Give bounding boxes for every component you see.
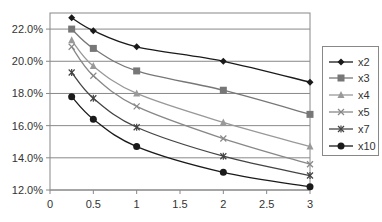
x-tick-label: 2 xyxy=(220,198,226,210)
x-axis-ticks: 00.511.522.53 xyxy=(47,190,313,210)
legend-label: x10 xyxy=(358,140,376,152)
series-x3 xyxy=(68,26,313,118)
legend-label: x5 xyxy=(358,106,370,118)
y-tick-label: 14.0% xyxy=(12,152,43,164)
legend: x2 x3 x4 x5 x7 x10 xyxy=(322,46,379,156)
y-tick-label: 12.0% xyxy=(12,184,43,196)
x-tick-label: 0.5 xyxy=(86,198,101,210)
x-tick-label: 2.5 xyxy=(259,198,274,210)
legend-item-x5: x5 xyxy=(327,105,370,119)
legend-item-x7: x7 xyxy=(327,122,370,136)
circle-marker-icon xyxy=(327,141,355,151)
legend-item-x10: x10 xyxy=(327,139,376,153)
y-tick-label: 18.0% xyxy=(12,87,43,99)
y-tick-label: 16.0% xyxy=(12,120,43,132)
legend-item-x4: x4 xyxy=(327,88,370,102)
series-x5 xyxy=(69,44,313,167)
plot-area xyxy=(50,13,310,190)
legend-item-x2: x2 xyxy=(327,55,370,69)
x-tick-label: 1 xyxy=(134,198,140,210)
legend-label: x3 xyxy=(358,72,370,84)
y-tick-label: 20.0% xyxy=(12,55,43,67)
x-tick-label: 3 xyxy=(307,198,313,210)
triangle-marker-icon xyxy=(327,90,355,100)
square-marker-icon xyxy=(327,73,355,83)
legend-label: x7 xyxy=(358,123,370,135)
x-marker-icon xyxy=(327,107,355,117)
legend-label: x2 xyxy=(358,56,370,68)
legend-item-x3: x3 xyxy=(327,71,370,85)
x-tick-label: 1.5 xyxy=(172,198,187,210)
diamond-marker-icon xyxy=(327,57,355,67)
y-axis-ticks: 12.0%14.0%16.0%18.0%20.0%22.0% xyxy=(12,23,43,196)
series-lines xyxy=(68,14,313,190)
star-marker-icon xyxy=(327,124,355,134)
x-tick-label: 0 xyxy=(47,198,53,210)
y-tick-label: 22.0% xyxy=(12,23,43,35)
legend-label: x4 xyxy=(358,89,370,101)
